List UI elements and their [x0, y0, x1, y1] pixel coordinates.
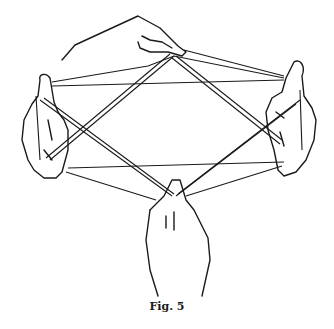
- top-hand: [62, 16, 186, 60]
- string-figure-illustration: [0, 0, 334, 300]
- left-hand: [22, 74, 68, 178]
- bottom-hand: [146, 180, 210, 296]
- right-hand: [266, 61, 316, 176]
- figure-caption: Fig. 5: [0, 300, 334, 313]
- string-loops: [36, 50, 302, 200]
